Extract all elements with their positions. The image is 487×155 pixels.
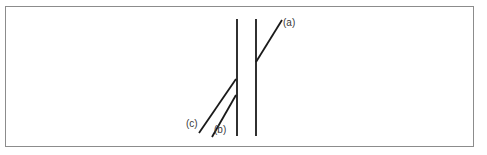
figure-label-a: (a) bbox=[283, 17, 295, 28]
figure-label-c: (c) bbox=[186, 118, 198, 129]
line-diagram bbox=[0, 0, 487, 155]
figure-label-b: (b) bbox=[214, 124, 226, 135]
figure-container: (a) (b) (c) bbox=[0, 0, 487, 155]
oblique-line-a bbox=[256, 20, 282, 62]
